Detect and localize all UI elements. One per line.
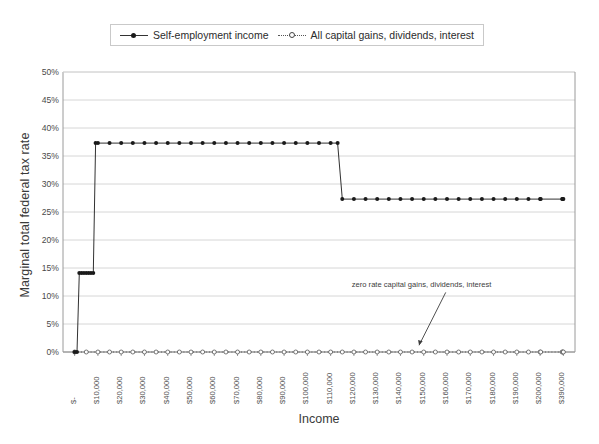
annotation-arrow <box>418 292 446 345</box>
series-self-employment <box>73 141 566 354</box>
annotation-label: zero rate capital gains, dividends, inte… <box>352 280 492 289</box>
chart-gridlines <box>63 72 575 352</box>
chart-container: Self-employment income All capital gains… <box>0 0 599 444</box>
chart-plot-area <box>0 0 599 444</box>
series-capital-gains <box>73 350 566 354</box>
